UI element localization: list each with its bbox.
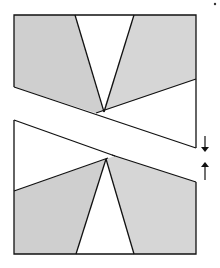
- up-arrow-icon: [201, 162, 209, 180]
- bottom-block-top-left-edge: [14, 120, 115, 156]
- speck-mark: [214, 3, 216, 5]
- top-block: [14, 15, 196, 148]
- bottom-block: [14, 120, 196, 254]
- down-arrow-icon: [201, 136, 209, 152]
- wedge-diagram: [0, 0, 220, 268]
